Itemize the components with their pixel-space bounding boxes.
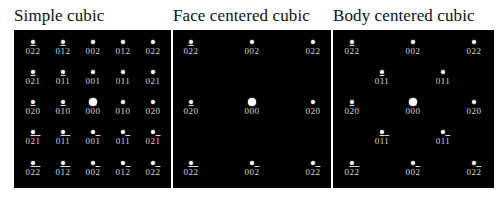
miller-index-label: 022 [171, 167, 211, 177]
spot-dot-icon [31, 70, 35, 74]
spot-dot-icon [151, 40, 155, 44]
spot-dot-icon [121, 100, 125, 104]
miller-index-label: 022 [332, 167, 372, 177]
spot-dot-icon [61, 70, 65, 74]
central-beam-spot-icon [248, 98, 256, 106]
miller-index-label: 000 [232, 106, 272, 116]
miller-index-label: 020 [293, 106, 333, 116]
spot-dot-icon [61, 100, 65, 104]
spot-dot-icon [472, 100, 476, 104]
spot-dot-icon [441, 130, 445, 134]
spot-dot-icon [91, 161, 95, 165]
miller-index-label: 020 [454, 106, 494, 116]
spot-dot-icon [311, 100, 315, 104]
miller-index-label: 020 [332, 106, 372, 116]
spot-dot-icon [151, 70, 155, 74]
miller-index-label: 011 [362, 76, 402, 86]
miller-index-label: 022 [332, 46, 372, 56]
spot-dot-icon [250, 161, 254, 165]
spot-dot-icon [311, 161, 315, 165]
spot-dot-icon [151, 130, 155, 134]
spot-dot-icon [121, 130, 125, 134]
miller-index-label: 000 [393, 106, 433, 116]
miller-index-label: 011 [423, 76, 463, 86]
spot-dot-icon [380, 130, 384, 134]
miller-index-label: 002 [232, 167, 272, 177]
central-beam-spot-icon [89, 98, 97, 106]
panel-title: Simple cubic [14, 6, 104, 26]
spot-dot-icon [61, 161, 65, 165]
central-beam-spot-icon [409, 98, 417, 106]
spot-dot-icon [151, 100, 155, 104]
spot-dot-icon [31, 161, 35, 165]
spot-dot-icon [31, 130, 35, 134]
spot-dot-icon [61, 130, 65, 134]
spot-dot-icon [61, 40, 65, 44]
spot-dot-icon [121, 40, 125, 44]
spot-dot-icon [189, 161, 193, 165]
miller-index-label: 002 [232, 46, 272, 56]
panel-title: Face centered cubic [173, 6, 310, 26]
spot-dot-icon [189, 100, 193, 104]
miller-index-label: 022 [133, 167, 173, 177]
spot-dot-icon [151, 161, 155, 165]
spot-dot-icon [350, 161, 354, 165]
spot-dot-icon [91, 40, 95, 44]
diffraction-pattern-panel: 022002022011011020000020011011022002022 [333, 30, 494, 188]
miller-index-label: 020 [133, 106, 173, 116]
miller-index-label: 022 [171, 46, 211, 56]
spot-dot-icon [189, 40, 193, 44]
miller-index-label: 021 [133, 136, 173, 146]
spot-dot-icon [91, 130, 95, 134]
miller-index-label: 022 [293, 167, 333, 177]
spot-dot-icon [411, 161, 415, 165]
spot-dot-icon [250, 40, 254, 44]
spot-dot-icon [31, 40, 35, 44]
miller-index-label: 021 [133, 76, 173, 86]
spot-dot-icon [350, 40, 354, 44]
diffraction-pattern-panel: 022002022020000020022002022 [173, 30, 331, 188]
miller-index-label: 002 [393, 46, 433, 56]
panel-title: Body centered cubic [333, 6, 475, 26]
miller-index-label: 011 [423, 136, 463, 146]
miller-index-label: 020 [171, 106, 211, 116]
spot-dot-icon [121, 70, 125, 74]
spot-dot-icon [91, 70, 95, 74]
spot-dot-icon [472, 161, 476, 165]
miller-index-label: 022 [293, 46, 333, 56]
miller-index-label: 002 [393, 167, 433, 177]
spot-dot-icon [441, 70, 445, 74]
miller-index-label: 022 [454, 167, 494, 177]
spot-dot-icon [472, 40, 476, 44]
spot-dot-icon [411, 40, 415, 44]
spot-dot-icon [380, 70, 384, 74]
miller-index-label: 022 [454, 46, 494, 56]
miller-index-label: 022 [133, 46, 173, 56]
diffraction-pattern-panel: 0220120020120220210110010110210200100000… [14, 30, 171, 188]
spot-dot-icon [121, 161, 125, 165]
miller-index-label: 011 [362, 136, 402, 146]
spot-dot-icon [31, 100, 35, 104]
spot-dot-icon [350, 100, 354, 104]
spot-dot-icon [311, 40, 315, 44]
